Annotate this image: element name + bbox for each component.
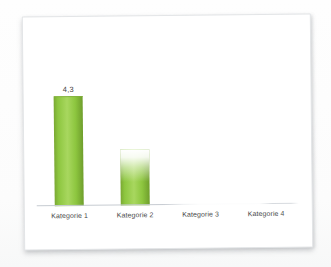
bar-cell (101, 55, 168, 206)
plot-area: 4,3 Kategorie 1Kategorie 2Kategorie 3Kat… (23, 15, 312, 250)
bar-cell (166, 54, 233, 205)
bar-kategorie-2 (120, 149, 150, 205)
bars-container: 4,3 (35, 54, 299, 207)
bar-cell (232, 54, 299, 205)
category-axis-labels: Kategorie 1Kategorie 2Kategorie 3Kategor… (37, 209, 299, 221)
data-label: 4,3 (36, 86, 102, 95)
chart-paper: 4,3 Kategorie 1Kategorie 2Kategorie 3Kat… (22, 13, 313, 250)
category-label: Kategorie 1 (37, 211, 103, 221)
photo-background: 4,3 Kategorie 1Kategorie 2Kategorie 3Kat… (0, 0, 331, 267)
category-label: Kategorie 3 (168, 209, 234, 219)
category-label: Kategorie 4 (233, 209, 299, 219)
bar-cell: 4,3 (35, 56, 102, 207)
category-label: Kategorie 2 (102, 210, 168, 220)
bar-kategorie-1 (54, 96, 84, 206)
